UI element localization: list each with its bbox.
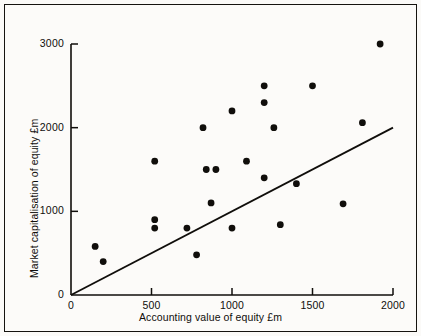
data-point xyxy=(359,119,366,126)
x-tick-label: 500 xyxy=(127,299,177,311)
data-point xyxy=(151,216,158,223)
scatter-plot-figure: 0100020003000 0500100015002000 Market ca… xyxy=(0,0,421,336)
y-axis-title: Market capitalisation of equity £m xyxy=(28,119,40,278)
data-point xyxy=(277,221,284,228)
data-point xyxy=(193,251,200,258)
data-point xyxy=(309,82,316,89)
data-points xyxy=(92,41,384,265)
data-point xyxy=(270,124,277,131)
data-point xyxy=(243,158,250,165)
data-point xyxy=(213,166,220,173)
data-point xyxy=(184,225,191,232)
data-point xyxy=(261,174,268,181)
x-axis-title: Accounting value of equity £m xyxy=(0,311,421,323)
data-point xyxy=(229,108,236,115)
y-tick-label: 3000 xyxy=(20,37,64,49)
data-point xyxy=(261,99,268,106)
y-tick-label: 2000 xyxy=(20,121,64,133)
x-tick-label: 1000 xyxy=(207,299,257,311)
trend-line xyxy=(71,128,393,295)
data-point xyxy=(208,200,215,207)
x-tick-label: 0 xyxy=(46,299,96,311)
tick-marks xyxy=(71,44,393,295)
data-point xyxy=(151,225,158,232)
x-tick-label: 1500 xyxy=(288,299,338,311)
x-tick-label: 2000 xyxy=(368,299,418,311)
data-point xyxy=(293,180,300,187)
data-point xyxy=(203,166,210,173)
data-point xyxy=(151,158,158,165)
data-point xyxy=(340,200,347,207)
y-tick-label: 1000 xyxy=(20,204,64,216)
data-point xyxy=(229,225,236,232)
data-point xyxy=(100,258,107,265)
axes xyxy=(71,44,393,295)
data-point xyxy=(92,243,99,250)
plot-canvas xyxy=(0,0,421,336)
data-point xyxy=(200,124,207,131)
trend-line-segment xyxy=(71,128,393,295)
data-point xyxy=(261,82,268,89)
data-point xyxy=(377,41,384,48)
